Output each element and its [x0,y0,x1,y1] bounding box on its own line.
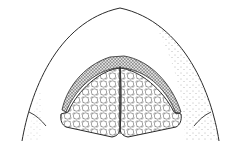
illustration [0,0,239,152]
illustration-svg [0,0,239,152]
